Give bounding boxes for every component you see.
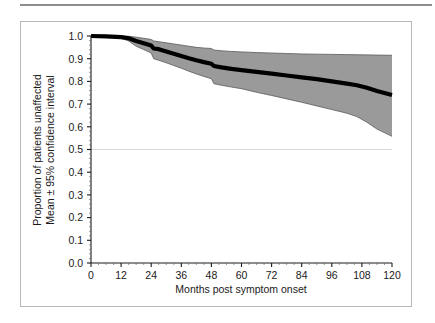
y-tick-label-0.2: 0.2 bbox=[68, 211, 83, 223]
x-tick-label-60: 60 bbox=[236, 269, 248, 281]
y-tick-label-0.5: 0.5 bbox=[68, 143, 83, 155]
y-tick-label-0.3: 0.3 bbox=[68, 189, 83, 201]
survival-curve-chart: 0.00.10.20.30.40.50.60.70.80.91.0 012243… bbox=[0, 0, 435, 323]
y-axis-ticks bbox=[87, 36, 91, 263]
y-tick-label-0.6: 0.6 bbox=[68, 121, 83, 133]
x-axis-ticks bbox=[91, 263, 392, 267]
y-axis-title-line-1: Proportion of patients unaffected bbox=[31, 74, 43, 226]
y-tick-label-0.7: 0.7 bbox=[68, 98, 83, 110]
x-tick-label-24: 24 bbox=[145, 269, 157, 281]
chart-plot-area: 0.00.10.20.30.40.50.60.70.80.91.0 012243… bbox=[0, 0, 435, 323]
y-tick-label-0.0: 0.0 bbox=[68, 257, 83, 269]
y-tick-label-0.8: 0.8 bbox=[68, 75, 83, 87]
y-tick-label-0.9: 0.9 bbox=[68, 53, 83, 65]
x-tick-label-84: 84 bbox=[296, 269, 308, 281]
x-tick-label-108: 108 bbox=[353, 269, 371, 281]
x-tick-label-0: 0 bbox=[88, 269, 94, 281]
x-tick-label-12: 12 bbox=[115, 269, 127, 281]
confidence-interval-band bbox=[91, 36, 392, 136]
y-axis-tick-labels: 0.00.10.20.30.40.50.60.70.80.91.0 bbox=[68, 30, 83, 269]
y-axis-title-line-2: Mean ± 95% confidence interval bbox=[44, 75, 56, 224]
y-tick-label-0.1: 0.1 bbox=[68, 234, 83, 246]
x-tick-label-120: 120 bbox=[383, 269, 401, 281]
x-tick-label-72: 72 bbox=[266, 269, 278, 281]
y-tick-label-0.4: 0.4 bbox=[68, 166, 83, 178]
y-tick-label-1.0: 1.0 bbox=[68, 30, 83, 42]
x-tick-label-96: 96 bbox=[326, 269, 338, 281]
x-axis-title: Months post symptom onset bbox=[175, 283, 306, 295]
x-axis-tick-labels: 01224364860728496108120 bbox=[88, 269, 401, 281]
x-tick-label-36: 36 bbox=[175, 269, 187, 281]
x-tick-label-48: 48 bbox=[206, 269, 218, 281]
figure-page: 0.00.10.20.30.40.50.60.70.80.91.0 012243… bbox=[0, 0, 435, 323]
